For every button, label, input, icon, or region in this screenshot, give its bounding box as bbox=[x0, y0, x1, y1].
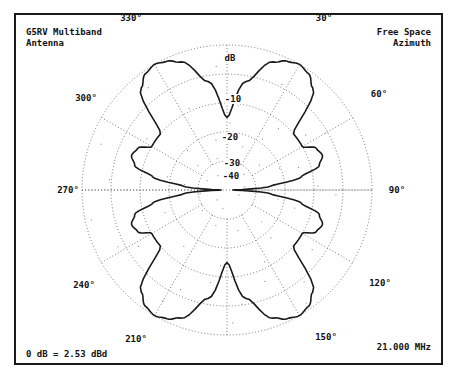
db-label-minus20: -20 bbox=[222, 132, 238, 142]
angle-label-90: 90° bbox=[389, 185, 405, 195]
angle-label-300: 300° bbox=[75, 93, 97, 103]
angle-label-240: 240° bbox=[73, 280, 95, 290]
polar-grid bbox=[82, 45, 372, 335]
angle-label-330: 330° bbox=[120, 13, 142, 23]
angle-label-150: 150° bbox=[315, 332, 337, 342]
db-label-minus10: -10 bbox=[225, 94, 241, 104]
angle-label-60: 60° bbox=[371, 89, 387, 99]
db-label-minus40: -40 bbox=[223, 171, 239, 181]
angle-label-120: 120° bbox=[369, 278, 391, 288]
angle-label-210: 210° bbox=[125, 334, 147, 344]
angle-label-270: 270° bbox=[57, 185, 79, 195]
angle-label-30: 30° bbox=[316, 13, 332, 23]
db-unit-label: dB bbox=[225, 53, 236, 63]
db-label-minus30: -30 bbox=[224, 158, 240, 168]
